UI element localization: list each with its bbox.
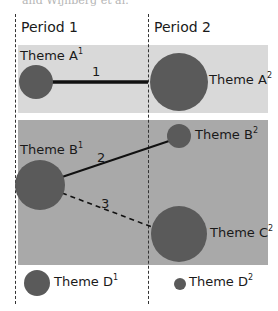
edge-1-label: 1 — [92, 64, 100, 79]
theme-b1-label: Theme B1 — [20, 142, 83, 157]
theme-d1-node — [24, 270, 50, 296]
theme-a2-node — [150, 53, 208, 111]
theme-b1-node — [15, 160, 65, 210]
theme-a1-label: Theme A1 — [20, 48, 83, 63]
theme-d1-label: Theme D1 — [54, 274, 118, 289]
theme-d2-node — [174, 278, 186, 290]
theme-b2-label: Theme B2 — [195, 127, 258, 142]
theme-a2-label: Theme A2 — [209, 72, 272, 87]
theme-c2-label: Theme C2 — [210, 225, 273, 240]
theme-d2-label: Theme D2 — [189, 274, 253, 289]
edge-2-label: 2 — [97, 150, 105, 165]
theme-c2-node — [151, 206, 207, 262]
theme-a1-node — [19, 65, 53, 99]
theme-b2-node — [167, 124, 191, 148]
edge-3-label: 3 — [101, 196, 109, 211]
